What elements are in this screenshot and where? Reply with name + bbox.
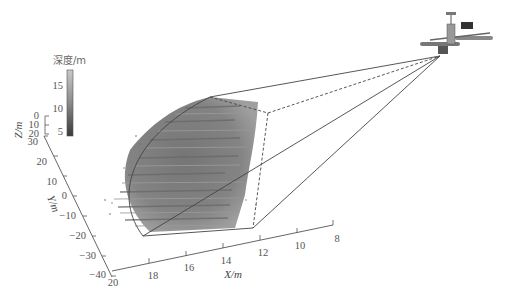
point-cloud — [104, 97, 258, 232]
y-axis: 30 20 10 0 −10 −20 −30 −40 Y/m — [28, 136, 117, 280]
y-tick: −30 — [80, 250, 96, 261]
x-tick: 20 — [108, 277, 119, 288]
chart-canvas: 深度/m 15 10 5 0 10 20 Z/m 30 20 10 0 — [0, 0, 510, 302]
y-tick: 10 — [47, 176, 58, 187]
y-tick: 20 — [37, 156, 48, 167]
colorbar-tick: 10 — [53, 103, 64, 114]
y-tick: 30 — [28, 136, 39, 147]
z-axis: 0 10 20 Z/m — [12, 110, 49, 139]
x-tick: 14 — [221, 255, 232, 266]
colorbar: 深度/m 15 10 5 — [53, 54, 87, 137]
x-tick: 12 — [258, 247, 269, 258]
y-tick: −20 — [70, 230, 86, 241]
colorbar-tick: 15 — [53, 80, 64, 91]
colorbar-tick: 5 — [58, 126, 63, 137]
x-tick: 18 — [148, 270, 159, 281]
y-tick: −40 — [90, 269, 106, 280]
x-axis-label: X/m — [223, 268, 242, 280]
colorbar-gradient — [67, 70, 73, 136]
vessel-icon — [420, 12, 493, 54]
y-tick: 0 — [62, 190, 67, 201]
x-tick: 10 — [295, 240, 306, 251]
x-tick: 8 — [334, 233, 339, 244]
z-axis-label: Z/m — [12, 121, 24, 138]
y-tick: −10 — [60, 210, 76, 221]
colorbar-title: 深度/m — [53, 54, 86, 66]
x-tick: 16 — [184, 262, 195, 273]
